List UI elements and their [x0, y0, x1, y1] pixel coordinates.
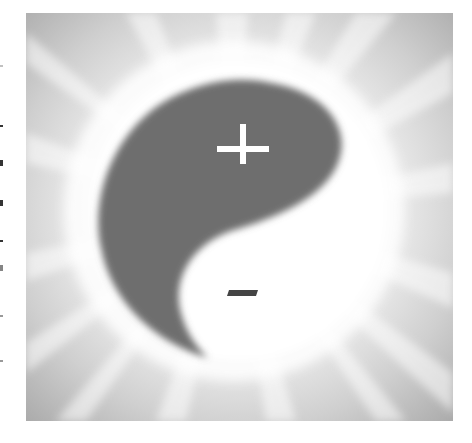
yin-yang-illustration: [26, 13, 453, 421]
minus-icon: [227, 290, 258, 296]
cropped-text-fragments: [0, 60, 6, 410]
